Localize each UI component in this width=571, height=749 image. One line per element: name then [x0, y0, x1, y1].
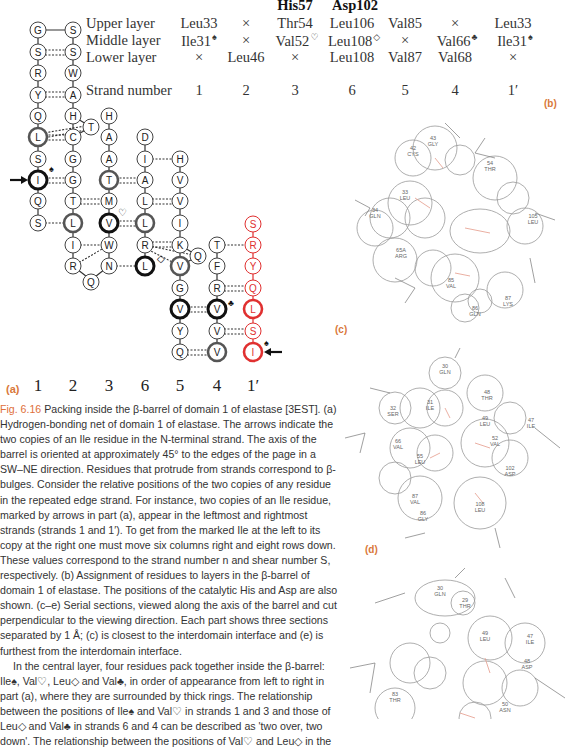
strand-label: 4	[213, 376, 222, 396]
svg-text:VAL: VAL	[446, 283, 456, 289]
svg-text:T: T	[214, 240, 220, 251]
svg-text:LEU: LEU	[480, 421, 491, 427]
svg-text:L: L	[142, 196, 148, 207]
svg-text:T: T	[88, 122, 94, 133]
cell-middle-text: Leu108	[328, 33, 372, 49]
strand-label: 2	[69, 376, 78, 396]
svg-text:Y: Y	[35, 90, 42, 101]
cell-upper: Leu33	[494, 15, 531, 32]
cell-middle: Leu108◇	[328, 32, 380, 50]
panel-label-c: (c)	[335, 324, 347, 335]
svg-text:Q: Q	[249, 283, 257, 294]
svg-text:LEU: LEU	[480, 636, 491, 642]
svg-text:G: G	[69, 175, 77, 186]
cell-middle-text: Ile31	[497, 33, 527, 49]
svg-text:LEU: LEU	[415, 459, 426, 465]
svg-text:VAL: VAL	[393, 444, 403, 450]
svg-text:GLN: GLN	[434, 591, 445, 597]
cell-middle-text: Val66	[437, 33, 471, 49]
svg-text:H: H	[69, 111, 76, 122]
arrow-right-icon	[10, 176, 28, 184]
svg-text:D: D	[141, 132, 148, 143]
cell-middle: Ile31♠	[497, 32, 533, 50]
svg-text:K: K	[177, 240, 184, 251]
svg-text:T: T	[70, 196, 76, 207]
svg-text:S: S	[70, 47, 77, 58]
cell-strand: 4	[451, 82, 458, 99]
svg-text:THR: THR	[481, 395, 492, 401]
svg-text:V: V	[177, 196, 184, 207]
svg-text:R: R	[213, 283, 220, 294]
serial-sections: .blob { fill:none; stroke:#999; stroke-w…	[335, 108, 571, 719]
svg-text:Q: Q	[34, 111, 42, 122]
svg-text:GLY: GLY	[428, 141, 439, 147]
svg-text:N: N	[105, 261, 112, 272]
svg-text:V: V	[106, 218, 113, 229]
svg-text:GLN: GLN	[439, 369, 450, 375]
caption-text: Packing inside the β-barrel of domain 1 …	[0, 403, 337, 657]
cell-lower: Val87	[388, 49, 422, 66]
svg-text:Q: Q	[34, 196, 42, 207]
svg-text:I: I	[72, 240, 75, 251]
figure-number: Fig. 6.16	[0, 403, 41, 415]
svg-text:A: A	[142, 175, 149, 186]
svg-text:ASN: ASN	[499, 707, 510, 713]
svg-text:L: L	[70, 218, 76, 229]
svg-text:G: G	[69, 154, 77, 165]
svg-text:CYS: CYS	[407, 151, 419, 157]
svg-text:Q: Q	[87, 277, 95, 288]
svg-text:S: S	[250, 326, 257, 337]
svg-text:G: G	[34, 25, 42, 36]
club-marker-icon: ♣	[471, 32, 477, 42]
svg-text:THR: THR	[459, 603, 470, 609]
section-c: 43GLY 42CYS 54THR 33LEU 34GLN 105LEU 65A…	[355, 123, 555, 322]
svg-text:ASP: ASP	[504, 471, 515, 477]
strand-label: 3	[105, 376, 114, 396]
cell-middle: ×	[401, 32, 409, 49]
svg-text:L: L	[142, 261, 148, 272]
svg-text:ILE: ILE	[527, 423, 536, 429]
hbond-net-diagram: .bb { stroke:#333; stroke-width:1.2; fil…	[0, 0, 300, 400]
cell-upper: ×	[451, 15, 459, 32]
spade-marker-icon: ♠	[264, 338, 269, 348]
caption-paragraph: Fig. 6.16 Packing inside the β-barrel of…	[0, 402, 338, 659]
svg-text:A: A	[106, 154, 113, 165]
svg-text:GLN: GLN	[469, 311, 480, 317]
svg-text:G: G	[176, 283, 184, 294]
svg-text:V: V	[214, 347, 221, 358]
svg-text:ASP: ASP	[521, 664, 532, 670]
strand-6: D I A L L R L	[136, 129, 154, 275]
heart-marker-icon: ♡	[310, 32, 318, 42]
svg-text:V: V	[214, 304, 221, 315]
svg-text:L: L	[142, 218, 148, 229]
svg-text:GLY: GLY	[418, 516, 429, 522]
svg-text:VAL: VAL	[490, 441, 500, 447]
svg-text:Y: Y	[177, 326, 184, 337]
svg-text:I: I	[179, 218, 182, 229]
svg-text:V: V	[177, 304, 184, 315]
svg-text:A: A	[106, 132, 113, 143]
svg-text:S: S	[250, 219, 257, 230]
cell-upper: Val85	[388, 15, 422, 32]
strand-label: 5	[176, 376, 185, 396]
svg-text:SER: SER	[387, 411, 398, 417]
spade-marker-icon: ♠	[528, 32, 533, 42]
figure-caption: Fig. 6.16 Packing inside the β-barrel of…	[0, 402, 338, 749]
cell-strand: 1′	[508, 82, 518, 99]
svg-text:LEU: LEU	[400, 195, 411, 201]
panel-label-a: (a)	[6, 383, 19, 395]
strand-label: 6	[141, 376, 150, 396]
cell-upper: Leu106	[330, 15, 374, 32]
svg-text:ARG: ARG	[395, 253, 407, 259]
body-paragraph: In the central layer, four residues pack…	[0, 659, 338, 749]
strand-1prime: S R Y Q L S I	[244, 216, 262, 361]
svg-text:GLN: GLN	[369, 213, 380, 219]
spade-marker-icon: ♠	[49, 164, 54, 174]
cell-lower: ×	[509, 49, 517, 66]
svg-text:W: W	[104, 240, 114, 251]
svg-text:R: R	[141, 240, 148, 251]
svg-text:W: W	[68, 68, 78, 79]
svg-text:H: H	[105, 111, 112, 122]
svg-text:I: I	[252, 347, 255, 358]
svg-text:A: A	[70, 90, 77, 101]
